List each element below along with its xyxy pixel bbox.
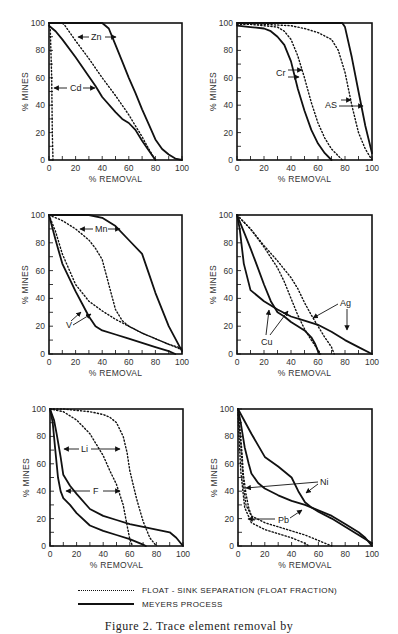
legend-item-float-sink: FLOAT - SINK SEPARATION (FLOAT FRACTION) xyxy=(78,583,378,597)
label-f: F xyxy=(93,486,99,496)
label-cu: Cu xyxy=(261,337,273,347)
label-pb: Pb xyxy=(278,515,289,525)
label-zn: Zn xyxy=(91,32,102,42)
label-v: V xyxy=(66,320,72,330)
label-as: AS xyxy=(325,100,337,110)
legend-label: MEYERS PROCESS xyxy=(142,600,223,609)
label-cd: Cd xyxy=(70,83,82,93)
legend-item-meyers: MEYERS PROCESS xyxy=(78,597,378,611)
label-ni: Ni xyxy=(320,477,329,487)
label-cr: Cr xyxy=(276,68,286,78)
figure-caption: Figure 2. Trace element removal by xyxy=(0,619,398,634)
legend-label: FLOAT - SINK SEPARATION (FLOAT FRACTION) xyxy=(142,586,337,595)
dotted-line-swatch xyxy=(78,590,134,591)
label-ag: Ag xyxy=(340,298,351,308)
solid-line-swatch xyxy=(78,603,134,605)
legend: FLOAT - SINK SEPARATION (FLOAT FRACTION)… xyxy=(78,583,378,611)
label-mn: Mn xyxy=(95,224,108,234)
label-li: Li xyxy=(81,444,88,454)
